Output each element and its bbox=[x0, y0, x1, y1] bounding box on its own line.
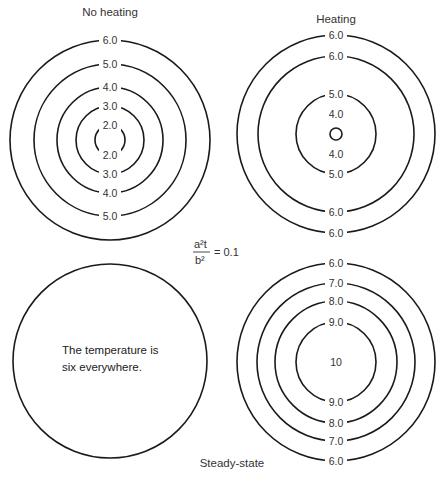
contour-label: 2.0 bbox=[103, 119, 118, 131]
contour-label: 5.0 bbox=[103, 210, 118, 222]
contour-label: 6.0 bbox=[329, 206, 344, 218]
contour-label: 3.0 bbox=[103, 100, 118, 112]
contour-label: 6.0 bbox=[329, 257, 344, 269]
contour-label: 2.0 bbox=[103, 149, 118, 161]
contour-ring bbox=[237, 35, 435, 233]
time-equation: a²t b² = 0.1 bbox=[193, 238, 239, 266]
contour-label: 4.0 bbox=[103, 81, 118, 93]
contour-label: 4.0 bbox=[329, 108, 344, 120]
contour-label: 5.0 bbox=[329, 168, 344, 180]
equation-numerator: a²t bbox=[194, 238, 207, 250]
contour-label: 4.0 bbox=[329, 148, 344, 160]
contour-label: 9.0 bbox=[329, 316, 344, 328]
contour-label: 7.0 bbox=[329, 277, 344, 289]
panel-steady-state: 6.06.07.07.08.08.09.09.0 10 Steady-state bbox=[200, 257, 435, 469]
center-label-steady: 10 bbox=[330, 356, 342, 368]
contour-label: 7.0 bbox=[329, 435, 344, 447]
uniform-note-line1: The temperature is bbox=[62, 344, 159, 356]
contour-label: 4.0 bbox=[103, 187, 118, 199]
contour-label: 3.0 bbox=[103, 168, 118, 180]
panel-title-no-heating: No heating bbox=[82, 6, 138, 18]
panel-no-heating: No heating 6.05.05.04.04.03.03.02.02.0 bbox=[10, 6, 210, 240]
contour-label: 6.0 bbox=[329, 50, 344, 62]
contour-ring bbox=[76, 106, 144, 174]
contour-label: 6.0 bbox=[103, 34, 118, 46]
equation-denominator: b² bbox=[195, 254, 205, 266]
equation-rhs: = 0.1 bbox=[214, 246, 239, 258]
contour-label: 6.0 bbox=[329, 29, 344, 41]
panel-title-steady-state: Steady-state bbox=[200, 457, 265, 469]
contour-label: 5.0 bbox=[329, 88, 344, 100]
contour-ring bbox=[258, 56, 414, 212]
contour-label: 6.0 bbox=[329, 455, 344, 467]
uniform-note-line2: six everywhere. bbox=[62, 361, 142, 373]
panel-heating: Heating 6.06.06.06.05.05.04.04.0 bbox=[237, 13, 435, 239]
panel-uniform: The temperature is six everywhere. bbox=[13, 264, 207, 458]
contour-label: 8.0 bbox=[329, 295, 344, 307]
contour-label: 9.0 bbox=[329, 396, 344, 408]
contour-ring bbox=[330, 128, 342, 140]
contour-label: 8.0 bbox=[329, 417, 344, 429]
panel-title-heating: Heating bbox=[316, 13, 356, 25]
contour-label: 5.0 bbox=[103, 58, 118, 70]
contour-ring bbox=[296, 94, 376, 174]
contour-label: 6.0 bbox=[329, 227, 344, 239]
diagram-canvas: No heating 6.05.05.04.04.03.03.02.02.0 H… bbox=[0, 0, 445, 479]
